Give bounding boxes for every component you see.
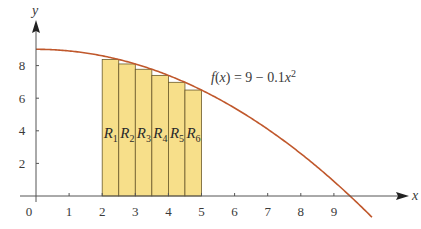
- function-curve-path: [36, 49, 372, 217]
- function-label: f(x) = 9 − 0.1x2: [211, 68, 296, 86]
- y-tick-label: 4: [19, 123, 26, 138]
- x-tick-label: 3: [132, 204, 139, 219]
- x-tick-label: 5: [198, 204, 205, 219]
- x-tick-label: 8: [298, 204, 305, 219]
- x-tick-label: 0: [26, 204, 33, 219]
- x-axis-label: x: [411, 188, 419, 203]
- y-tick-label: 6: [19, 91, 26, 106]
- y-tick-label: 2: [19, 156, 26, 171]
- labels: R1R2R3R4R5R601234567892468xyf(x) = 9 − 0…: [19, 3, 419, 219]
- x-tick-label: 6: [231, 204, 238, 219]
- x-tick-label: 2: [99, 204, 106, 219]
- y-tick-label: 8: [19, 58, 26, 73]
- x-tick-label: 4: [165, 204, 172, 219]
- function-curve: [36, 49, 372, 217]
- y-axis-label: y: [30, 3, 39, 18]
- axes: [20, 20, 409, 202]
- x-tick-label: 9: [331, 204, 338, 219]
- x-tick-label: 1: [66, 204, 73, 219]
- x-tick-label: 7: [264, 204, 271, 219]
- riemann-sum-chart: R1R2R3R4R5R601234567892468xyf(x) = 9 − 0…: [0, 0, 421, 229]
